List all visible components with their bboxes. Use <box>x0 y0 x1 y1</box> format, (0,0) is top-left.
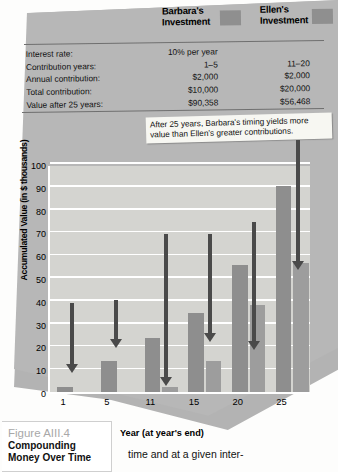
arrow-barbara-year1 <box>66 303 78 373</box>
y-axis-tick-label: 100 <box>20 161 46 171</box>
legend-item-barbara: Barbara's Investment <box>162 5 210 28</box>
arrow-ellen-year15 <box>204 234 216 342</box>
y-axis-tick-label: 90 <box>20 184 46 194</box>
bar-ellen-year-15 <box>206 361 222 392</box>
gridline <box>50 254 310 256</box>
x-axis-tick-label: 20 <box>233 396 243 407</box>
row-value-ellen <box>230 44 318 58</box>
bar-barbara-year-15 <box>188 313 204 392</box>
callout-summary: After 25 years, Barbara's timing yields … <box>146 112 333 143</box>
y-axis-tick-label: 50 <box>20 275 46 285</box>
bar-barbara-year-11 <box>145 338 161 392</box>
x-axis-label: Year (at year's end) <box>120 428 204 438</box>
row-value-ellen: 11–20 <box>230 57 318 71</box>
figure-number: Figure AIII.4 <box>8 426 105 440</box>
x-axis-tick-label: 5 <box>104 396 109 407</box>
legend-swatch-ellen <box>312 9 333 24</box>
assumptions-table: Interest rate:10% per yearContribution y… <box>26 44 327 112</box>
row-value-ellen: $56,468 <box>230 95 318 109</box>
body-paragraph: time and at a given inter- <box>128 448 328 461</box>
legend-barbara-line1: Barbara's <box>162 5 210 17</box>
y-axis-tick-label: 80 <box>20 207 46 217</box>
y-axis-tick-label: 20 <box>20 343 46 353</box>
x-axis-tick-label: 1 <box>60 396 65 407</box>
gridline <box>50 299 310 301</box>
legend-item-ellen: Ellen's Investment <box>260 3 308 26</box>
arrow-barbara-year5 <box>110 300 122 348</box>
y-axis-tick-label: 10 <box>20 366 46 376</box>
arrow-ellen-year11 <box>160 234 172 386</box>
gridline <box>50 185 310 187</box>
gridline <box>50 276 310 278</box>
gridline <box>50 368 310 370</box>
x-axis-tick-label: 25 <box>276 396 286 407</box>
legend-ellen-line1: Ellen's <box>260 3 308 15</box>
arrow-ellen-year20 <box>248 222 260 350</box>
y-axis-tick-label: 70 <box>20 229 46 239</box>
legend-barbara-line2: Investment <box>162 16 210 28</box>
gridline <box>50 345 310 347</box>
y-axis-tick-label: 30 <box>20 321 46 331</box>
bar-barbara-year-1 <box>57 387 73 392</box>
row-value-ellen: $20,000 <box>230 82 318 96</box>
bar-ellen-year-25 <box>293 263 309 392</box>
x-axis-tick-label: 11 <box>146 396 156 407</box>
x-axis-tick-label: 15 <box>189 396 199 407</box>
figure-title-line1: Compounding <box>8 440 105 452</box>
chart-legend: Barbara's Investment Ellen's Investment <box>162 3 338 40</box>
figure-title-line2: Money Over Time <box>8 452 105 464</box>
legend-ellen-line2: Investment <box>260 14 308 26</box>
bar-barbara-year-25 <box>276 186 292 392</box>
y-axis-tick-label: 60 <box>20 252 46 262</box>
x-axis-ticks: 1511152025 <box>48 396 310 410</box>
gridline <box>50 208 310 210</box>
bar-ellen-year-11 <box>162 387 178 392</box>
arrow-ellen-year25 <box>292 140 304 270</box>
row-label: Value after 25 years: <box>26 97 134 111</box>
gridline <box>50 322 310 324</box>
y-axis-ticks: 0102030405060708090100 <box>16 166 46 394</box>
gridline <box>50 162 310 164</box>
row-value-ellen: $2,000 <box>230 69 318 83</box>
bar-chart-plot <box>48 166 310 394</box>
legend-swatch-barbara <box>220 10 241 25</box>
y-axis-tick-label: 40 <box>20 298 46 308</box>
y-axis-tick-label: 0 <box>20 389 46 399</box>
figure-caption: Figure AIII.4 Compounding Money Over Tim… <box>2 421 112 472</box>
bar-barbara-year-5 <box>101 361 117 392</box>
bar-barbara-year-20 <box>232 265 248 392</box>
gridline <box>50 231 310 233</box>
row-value-barbara: $90,358 <box>134 96 230 110</box>
